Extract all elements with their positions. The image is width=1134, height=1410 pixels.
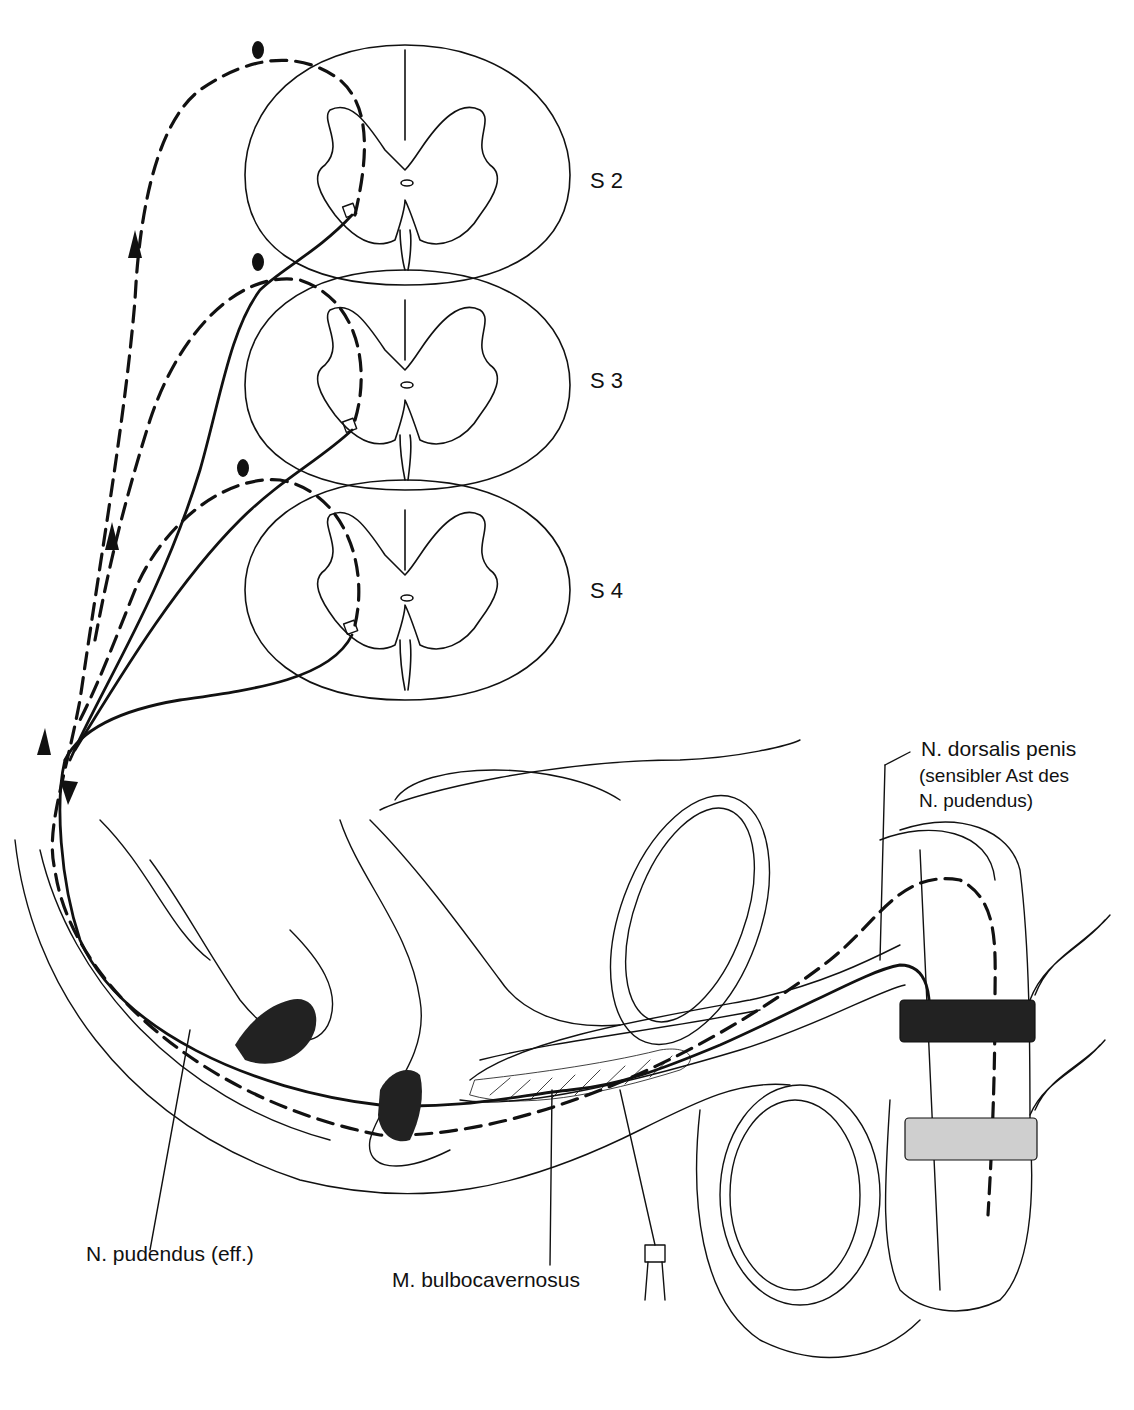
label-n-dorsalis-penis: N. dorsalis penis <box>921 737 1076 761</box>
anatomical-diagram <box>0 0 1134 1410</box>
bulbocavernosus-muscle <box>470 1049 690 1101</box>
spinal-segment-s2 <box>245 45 570 285</box>
spinal-segment-s4 <box>245 480 570 700</box>
dorsal-root-ganglia <box>237 41 264 477</box>
segment-label-s3: S 3 <box>590 368 623 394</box>
segment-label-s4: S 4 <box>590 578 623 604</box>
label-n-dorsalis-note-1: (sensibler Ast des <box>919 764 1069 787</box>
label-n-pudendus-eff: N. pudendus (eff.) <box>86 1242 254 1266</box>
spinal-segment-s3 <box>245 270 570 490</box>
segment-label-s2: S 2 <box>590 168 623 194</box>
afferent-pathways <box>52 60 995 1215</box>
stippled-sphincter-muscles <box>235 999 422 1141</box>
stimulation-ring-electrodes <box>900 915 1110 1160</box>
label-m-bulbocavernosus: M. bulbocavernosus <box>392 1268 580 1292</box>
label-n-dorsalis-note-2: N. pudendus) <box>919 789 1033 812</box>
